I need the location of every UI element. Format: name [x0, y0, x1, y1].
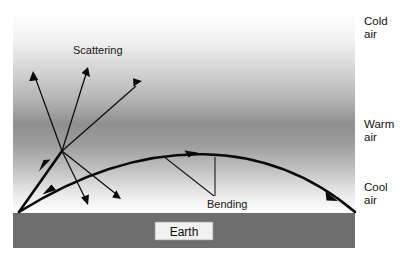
layer-label-warm-air: Warm air — [364, 118, 394, 143]
bending-label: Bending — [207, 198, 247, 210]
cool-air-label-line2: air — [364, 194, 377, 206]
cold-air-label-line2: air — [364, 28, 377, 40]
layer-label-cool-air: Cool air — [364, 181, 388, 206]
atmosphere-gradient-panel — [13, 12, 355, 213]
diagram-canvas: Earth Scattering Bending Cold air Warm a… — [0, 0, 413, 262]
layer-label-cold-air: Cold air — [364, 15, 388, 40]
scattering-label: Scattering — [73, 44, 123, 56]
atmosphere-diagram-svg: Earth Scattering Bending Cold air Warm a… — [0, 0, 413, 262]
warm-air-label-line1: Warm — [364, 118, 394, 130]
warm-air-label-line2: air — [364, 131, 377, 143]
cold-air-label-line1: Cold — [364, 15, 388, 27]
cool-air-label-line1: Cool — [364, 181, 388, 193]
earth-label: Earth — [170, 225, 199, 239]
